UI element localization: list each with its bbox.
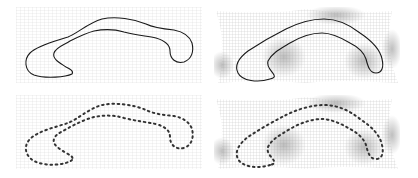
panel-top-left bbox=[16, 7, 202, 83]
deformed-grid-points-figure bbox=[214, 95, 400, 171]
deformed-grid-contour-figure bbox=[214, 7, 400, 85]
panel-top-right bbox=[214, 7, 400, 85]
panel-bottom-left bbox=[16, 95, 202, 169]
regular-grid-contour-figure bbox=[16, 7, 202, 83]
panel-bottom-right bbox=[214, 95, 400, 171]
regular-grid bbox=[16, 95, 202, 169]
regular-grid-points-figure bbox=[16, 95, 202, 169]
